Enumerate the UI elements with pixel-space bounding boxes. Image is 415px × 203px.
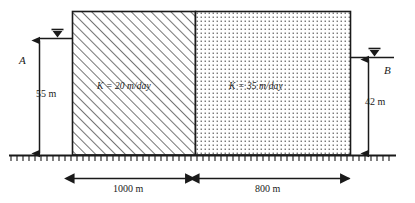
left-block-k-label: K = 20 m/day bbox=[97, 81, 151, 91]
right-block-k-label: K = 35 m/day bbox=[229, 81, 283, 91]
water-table-triangle-icon-right bbox=[369, 49, 381, 57]
left-head-value-label: 55 m bbox=[36, 88, 56, 99]
left-block-width-label: 1000 m bbox=[113, 183, 143, 194]
point-label-b: B bbox=[384, 64, 391, 76]
right-block-width-label: 800 m bbox=[255, 183, 280, 194]
cross-section-figure bbox=[0, 0, 415, 203]
right-head-value-label: 42 m bbox=[365, 96, 385, 107]
ground-datum-line bbox=[9, 156, 396, 162]
water-table-triangle-icon-left bbox=[52, 30, 64, 38]
point-label-a: A bbox=[19, 54, 26, 66]
